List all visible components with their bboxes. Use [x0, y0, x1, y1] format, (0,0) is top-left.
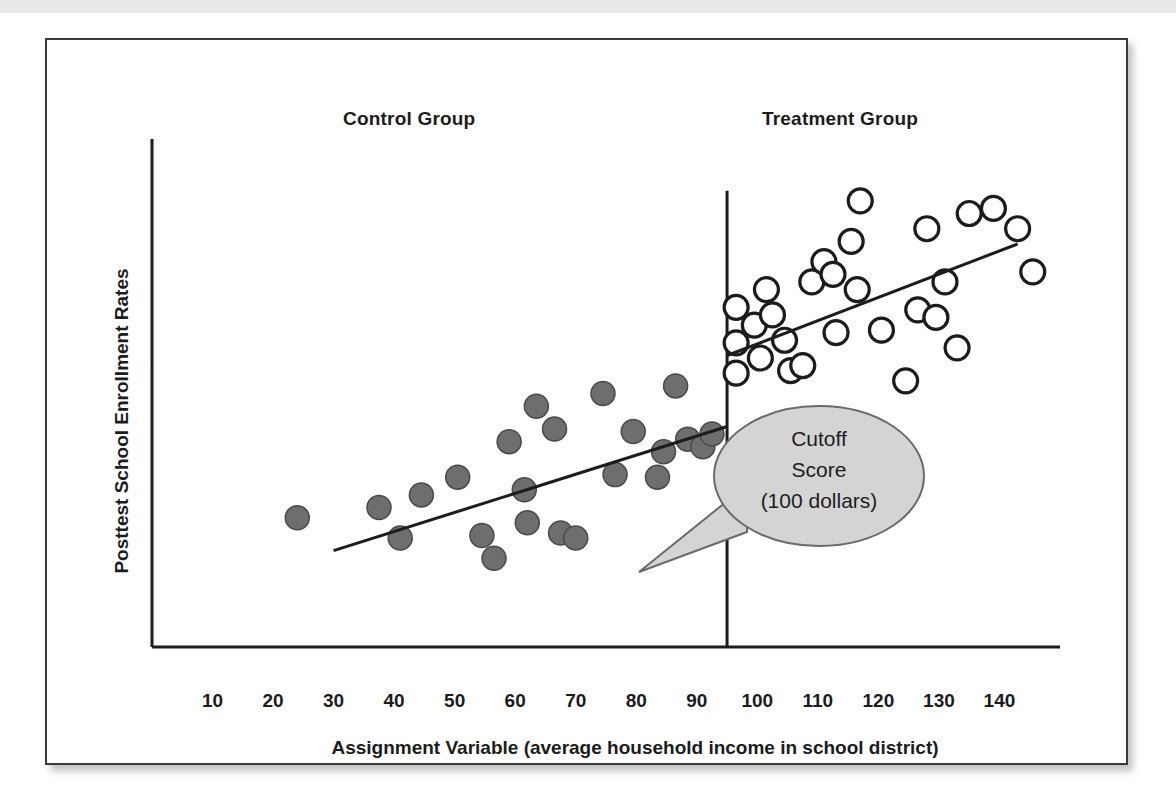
data-point [564, 526, 588, 550]
data-point [760, 303, 784, 327]
data-point [839, 229, 863, 253]
data-point [591, 382, 615, 406]
figure-frame: Control Group Treatment Group Posttest S… [45, 38, 1128, 765]
data-point [915, 217, 939, 241]
control-group-points [285, 374, 724, 570]
data-point [603, 463, 627, 487]
data-point [748, 346, 772, 370]
data-point [845, 278, 869, 302]
data-point [754, 278, 778, 302]
data-point [543, 417, 567, 441]
data-point [621, 420, 645, 444]
callout-line-2: Score [792, 458, 847, 481]
data-point [945, 336, 969, 360]
data-point [1006, 217, 1030, 241]
data-point [367, 496, 391, 520]
data-point [664, 374, 688, 398]
data-point [409, 483, 433, 507]
data-point [724, 361, 748, 385]
data-point [981, 196, 1005, 220]
data-point [924, 305, 948, 329]
treatment-group-points [724, 189, 1045, 393]
data-point [824, 321, 848, 345]
callout-line-3: (100 dollars) [761, 489, 878, 512]
data-point [497, 430, 521, 454]
callout-line-1: Cutoff [791, 427, 847, 450]
scatter-plot-canvas: Cutoff Score (100 dollars) [47, 40, 1130, 767]
data-point [645, 465, 669, 489]
data-point [524, 394, 548, 418]
data-point [821, 262, 845, 286]
data-point [848, 189, 872, 213]
data-point [446, 465, 470, 489]
data-point [285, 506, 309, 530]
data-point [791, 354, 815, 378]
data-point [957, 202, 981, 226]
data-point [894, 369, 918, 393]
data-point [869, 318, 893, 342]
data-point [482, 546, 506, 570]
data-point [1021, 260, 1045, 284]
top-page-band [0, 0, 1176, 13]
data-point [470, 523, 494, 547]
data-point [515, 511, 539, 535]
